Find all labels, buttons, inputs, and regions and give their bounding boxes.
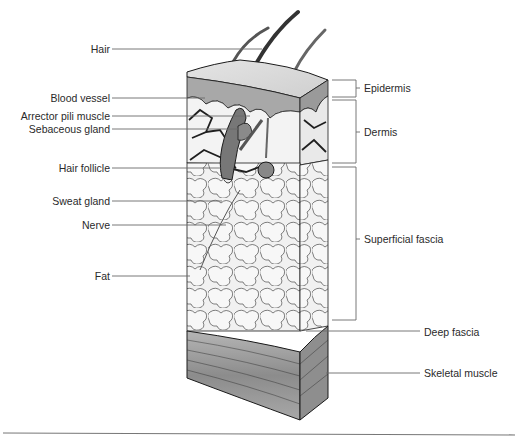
label-sebaceous-gland: Sebaceous gland <box>29 123 110 135</box>
sweat-gland <box>258 162 274 178</box>
label-hair-follicle: Hair follicle <box>59 162 110 174</box>
bottom-rule <box>3 433 515 435</box>
label-hair: Hair <box>91 43 110 55</box>
label-deep-fascia: Deep fascia <box>424 326 479 338</box>
label-dermis: Dermis <box>364 126 397 138</box>
label-skeletal-muscle: Skeletal muscle <box>424 367 498 379</box>
label-fat: Fat <box>95 270 110 282</box>
label-nerve: Nerve <box>82 219 110 231</box>
label-epidermis: Epidermis <box>364 82 411 94</box>
skeletal-muscle-layer <box>187 331 300 420</box>
fat-layer <box>187 163 300 331</box>
skin-diagram: Hair Blood vessel Arrector pili muscle S… <box>0 0 517 439</box>
label-sweat-gland: Sweat gland <box>52 195 110 207</box>
label-superficial-fascia: Superficial fascia <box>364 233 443 245</box>
label-arrector-pili-muscle: Arrector pili muscle <box>21 110 110 122</box>
label-blood-vessel: Blood vessel <box>50 92 110 104</box>
